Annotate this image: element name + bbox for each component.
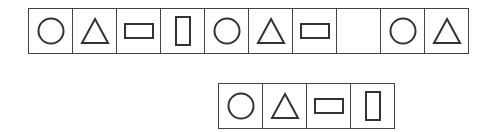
sequence-cell-3 bbox=[117, 9, 161, 53]
rectangle-horizontal-icon bbox=[299, 21, 331, 41]
rectangle-horizontal-icon bbox=[123, 21, 155, 41]
sequence-cell-2 bbox=[73, 9, 117, 53]
sequence-cell-5 bbox=[205, 9, 249, 53]
sequence-cell-8 bbox=[337, 9, 381, 53]
option-cell-4[interactable] bbox=[351, 84, 395, 128]
rectangle-vertical-icon bbox=[173, 15, 193, 47]
circle-icon bbox=[36, 16, 66, 46]
option-cell-1[interactable] bbox=[219, 84, 263, 128]
sequence-cell-9 bbox=[381, 9, 425, 53]
triangle-icon bbox=[255, 16, 287, 46]
triangle-icon bbox=[269, 91, 301, 121]
triangle-icon bbox=[79, 16, 111, 46]
sequence-row bbox=[28, 8, 469, 54]
options-row bbox=[218, 83, 395, 129]
sequence-cell-7 bbox=[293, 9, 337, 53]
option-cell-3[interactable] bbox=[307, 84, 351, 128]
triangle-icon bbox=[431, 16, 463, 46]
circle-icon bbox=[388, 16, 418, 46]
circle-icon bbox=[226, 91, 256, 121]
sequence-cell-1 bbox=[29, 9, 73, 53]
option-cell-2[interactable] bbox=[263, 84, 307, 128]
circle-icon bbox=[212, 16, 242, 46]
rectangle-horizontal-icon bbox=[313, 96, 345, 116]
sequence-cell-6 bbox=[249, 9, 293, 53]
rectangle-vertical-icon bbox=[363, 90, 383, 122]
sequence-cell-4 bbox=[161, 9, 205, 53]
sequence-cell-10 bbox=[425, 9, 469, 53]
